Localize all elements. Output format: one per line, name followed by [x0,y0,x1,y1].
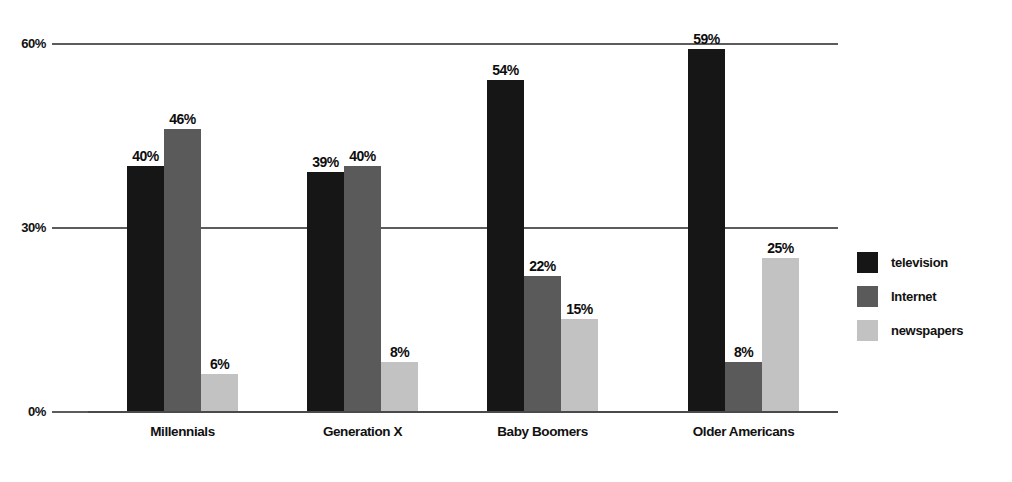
bar-value-label: 22% [529,258,556,274]
bar-fill [688,49,725,411]
y-tick-mark-60 [52,43,88,45]
y-tick-label-0: 0% [0,404,46,419]
bar-fill [344,166,381,411]
x-axis-label: Older Americans [693,424,795,439]
legend-swatch [857,286,878,307]
legend-swatch [857,252,878,273]
bar[interactable]: 54% [487,80,524,411]
bar[interactable]: 15% [561,319,598,411]
bar-fill [164,129,201,411]
x-axis-category-labels: MillennialsGeneration XBaby BoomersOlder… [88,424,838,454]
bar-fill [524,276,561,411]
bar[interactable]: 25% [762,258,799,411]
bar-value-label: 46% [169,111,196,127]
legend-item[interactable]: television [857,248,963,276]
bar-value-label: 40% [132,148,159,164]
bar-value-label: 8% [390,344,409,360]
bar-group: 39%40%8% [307,43,418,411]
bar-value-label: 25% [767,240,794,256]
x-axis-label: Millennials [150,424,215,439]
legend-item[interactable]: Internet [857,282,963,310]
legend: televisionInternetnewspapers [857,248,963,350]
legend-label: television [891,255,948,270]
y-tick-label-30: 30% [0,220,46,235]
bar[interactable]: 8% [725,362,762,411]
bar-groups: 40%46%6%39%40%8%54%22%15%59%8%25% [88,43,838,411]
y-tick-mark-0 [52,411,88,413]
bar-value-label: 40% [349,148,376,164]
bar-fill [307,172,344,411]
x-axis-label: Baby Boomers [497,424,587,439]
bar-value-label: 15% [566,301,593,317]
legend-label: Internet [891,289,936,304]
bar-value-label: 8% [734,344,753,360]
x-axis-label: Generation X [323,424,402,439]
bar-group: 54%22%15% [487,43,598,411]
bar-value-label: 39% [312,154,339,170]
bar-fill [201,374,238,411]
bar-fill [725,362,762,411]
bar[interactable]: 40% [127,166,164,411]
bar[interactable]: 39% [307,172,344,411]
bar-value-label: 6% [210,356,229,372]
bar-fill [487,80,524,411]
bar[interactable]: 6% [201,374,238,411]
bar-value-label: 59% [693,31,720,47]
y-tick-mark-30 [52,227,88,229]
bar-fill [762,258,799,411]
bar-value-label: 54% [492,62,519,78]
bar[interactable]: 46% [164,129,201,411]
bar[interactable]: 22% [524,276,561,411]
grouped-bar-chart: 60% 30% 0% 40%46%6%39%40%8%54%22%15%59%8… [0,0,1012,482]
bar-group: 40%46%6% [127,43,238,411]
y-tick-label-60: 60% [0,36,46,51]
bar-fill [381,362,418,411]
legend-label: newspapers [891,323,963,338]
bar-fill [127,166,164,411]
bar[interactable]: 40% [344,166,381,411]
legend-swatch [857,320,878,341]
x-axis-baseline [88,411,838,413]
bar[interactable]: 8% [381,362,418,411]
bar[interactable]: 59% [688,49,725,411]
plot-area: 40%46%6%39%40%8%54%22%15%59%8%25% [88,43,838,411]
bar-group: 59%8%25% [688,43,799,411]
bar-fill [561,319,598,411]
legend-item[interactable]: newspapers [857,316,963,344]
